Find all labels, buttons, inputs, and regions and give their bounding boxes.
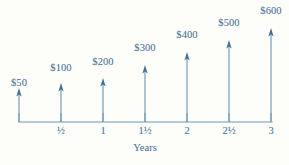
- x-axis-tick-label: 3: [268, 125, 273, 136]
- x-axis-tick-label: ½: [57, 125, 65, 136]
- cash-flow-value-label: $500: [218, 17, 239, 28]
- x-axis-title: Years: [133, 142, 156, 153]
- cash-flow-value-label: $50: [11, 77, 27, 88]
- cash-flow-value-label: $400: [176, 29, 197, 40]
- x-axis-tick-label: 2½: [222, 125, 235, 136]
- cash-flow-timeline-chart: $50$100$200$300$400$500$600 ½11½22½3 Yea…: [0, 0, 289, 165]
- x-axis-tick-label: 2: [184, 125, 189, 136]
- x-axis-tick-label: 1½: [138, 125, 151, 136]
- x-axis-tick-label: 1: [100, 125, 105, 136]
- cash-flow-value-label: $600: [260, 5, 281, 16]
- chart-canvas: [0, 0, 289, 165]
- cash-flow-value-label: $200: [92, 56, 113, 67]
- cash-flow-value-label: $100: [50, 62, 71, 73]
- cash-flow-value-label: $300: [134, 42, 155, 53]
